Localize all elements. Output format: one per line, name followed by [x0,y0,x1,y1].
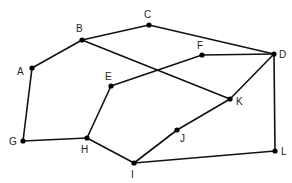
edges-layer [23,25,275,163]
node-b [79,37,84,42]
edge-d-l [274,54,275,151]
edge-i-j [134,130,177,163]
node-c [146,22,151,27]
node-d [271,51,276,56]
graph-diagram: ABCDEFGHIJKL [0,0,292,183]
node-label-g: G [9,136,17,147]
node-label-d: D [279,49,286,60]
edge-h-i [87,138,134,163]
node-h [84,135,89,140]
node-l [272,148,277,153]
labels-layer: ABCDEFGHIJKL [9,9,287,180]
edge-i-l [134,151,275,163]
node-label-f: F [197,40,203,51]
node-a [29,65,34,70]
node-label-c: C [144,9,151,20]
node-label-a: A [17,66,24,77]
node-e [108,83,113,88]
node-i [131,160,136,165]
edge-b-k [82,40,230,99]
edge-j-k [177,99,230,130]
node-j [174,127,179,132]
edge-c-d [149,25,274,54]
edge-d-k [230,54,274,99]
node-g [20,138,25,143]
edge-e-f [111,55,202,86]
node-label-e: E [105,71,112,82]
node-k [227,96,232,101]
node-f [199,52,204,57]
edge-b-c [82,25,149,40]
node-label-i: I [131,169,134,180]
edge-f-d [202,54,274,55]
edge-h-e [87,86,111,138]
edge-a-b [32,40,82,68]
node-label-b: B [76,23,83,34]
edge-a-g [23,68,32,141]
node-label-k: K [236,96,243,107]
edge-g-h [23,138,87,141]
node-label-h: H [81,144,88,155]
node-label-l: L [281,146,287,157]
nodes-layer [20,22,277,165]
node-label-j: J [180,133,185,144]
